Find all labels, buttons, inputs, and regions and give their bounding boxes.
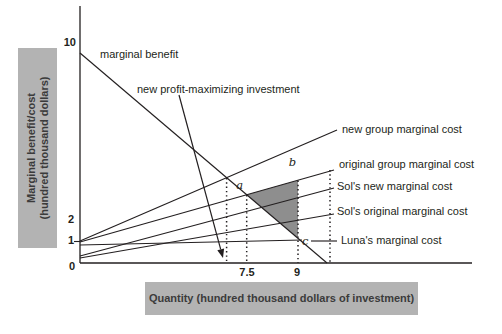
point-c-label: c: [302, 234, 309, 248]
y-tick-label: 0: [69, 260, 75, 272]
new-group-marginal-cost-label: new group marginal cost: [342, 123, 462, 135]
sols-original-marginal-cost-label: Sol's original marginal cost: [337, 205, 468, 217]
x-axis-label-box: Quantity (hundred thousand dollars of in…: [145, 282, 418, 315]
marginal-benefit-label: marginal benefit: [100, 48, 178, 60]
point-a-label: a: [236, 178, 243, 192]
y-tick-label: 10: [64, 36, 76, 48]
x-tick-label: 9: [294, 266, 300, 278]
lunas-marginal-cost-label: Luna's marginal cost: [341, 234, 442, 246]
original-group-marginal-cost-label: original group marginal cost: [339, 158, 474, 170]
new-profit-maximizing-investment-label: new profit-maximizing investment: [137, 83, 300, 95]
x-axis-label: Quantity (hundred thousand dollars of in…: [149, 292, 414, 305]
annotation-arrow-line: [179, 95, 221, 249]
x-tick-label: 7.5: [239, 266, 254, 278]
y-axis-label-box: Marginal benefit/cost (hundred thousand …: [18, 48, 57, 248]
lunas-marginal-cost-line: [80, 240, 302, 245]
y-tick-label: 1: [68, 234, 74, 246]
y-tick-label: 2: [68, 213, 74, 225]
sols-new-marginal-cost-label: Sol's new marginal cost: [337, 180, 452, 192]
y-axis-label: Marginal benefit/cost (hundred thousand …: [25, 77, 51, 220]
point-b-label: b: [289, 155, 296, 169]
figure-canvas: 102107.59marginal benefitnew group margi…: [0, 0, 502, 334]
annotation-arrowhead: [217, 248, 224, 258]
